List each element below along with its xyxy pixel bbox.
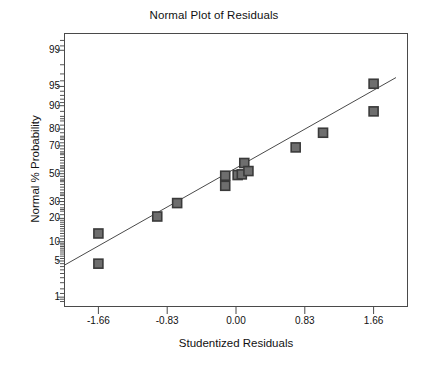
x-axis-title: Studentized Residuals — [64, 337, 408, 349]
x-tick-label: 0.83 — [280, 315, 330, 326]
x-tick-label: -1.66 — [73, 315, 123, 326]
plot-area — [64, 33, 408, 307]
x-tick-label: -0.83 — [142, 315, 192, 326]
x-tick-label: 0.00 — [211, 315, 261, 326]
y-axis-title: Normal % Probability — [29, 79, 41, 259]
normal-probability-plot-figure: Normal Plot of Residuals 99 95 90 80 70 … — [0, 0, 428, 367]
y-tick-label: 99 — [34, 45, 60, 55]
chart-title: Normal Plot of Residuals — [0, 9, 428, 21]
x-tick-label: 1.66 — [349, 315, 399, 326]
y-tick-label: 1 — [34, 292, 60, 302]
